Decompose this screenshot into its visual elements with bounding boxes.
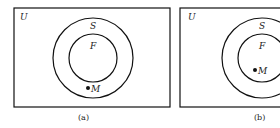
point-m-a	[86, 86, 90, 90]
universe-label-b: U	[188, 12, 196, 22]
point-m-b	[253, 68, 257, 72]
point-m-label-a: M	[90, 84, 101, 94]
set-f-label-b: F	[258, 41, 266, 51]
point-m-label-b: M	[257, 66, 268, 76]
set-s-circle-b	[222, 18, 280, 98]
set-f-label-a: F	[89, 41, 97, 51]
universe-label-a: U	[20, 12, 28, 22]
set-s-label-b: S	[259, 21, 265, 31]
panel-a: U S F M (a)	[14, 8, 170, 122]
venn-diagram-figure: U S F M (a) U S F M (b)	[0, 0, 280, 128]
caption-a: (a)	[78, 113, 89, 122]
set-s-label-a: S	[90, 21, 96, 31]
caption-b: (b)	[254, 113, 265, 122]
panel-b: U S F M (b)	[180, 8, 280, 122]
